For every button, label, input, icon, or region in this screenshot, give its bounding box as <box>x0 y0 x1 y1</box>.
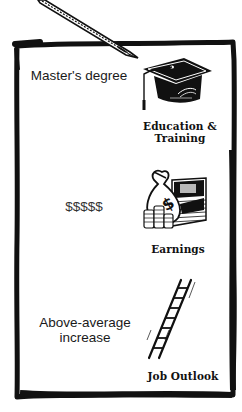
value-line: increase <box>30 330 140 345</box>
ladder-icon <box>145 278 200 360</box>
education-value: Master's degree <box>24 68 134 83</box>
value-line: Above-average <box>30 315 140 330</box>
job-outlook-caption: Job Outlook <box>138 370 228 382</box>
earnings-value: $$$$$ <box>46 199 122 214</box>
caption-line: Education & <box>140 120 220 132</box>
earnings-caption: Earnings <box>140 243 216 255</box>
pencil-icon <box>38 0 138 58</box>
caption-line: Training <box>140 132 220 144</box>
graduation-cap-icon <box>140 54 216 114</box>
job-outlook-value: Above-average increase <box>30 315 140 345</box>
education-training-caption: Education & Training <box>140 120 220 144</box>
money-bag-icon: $ <box>142 168 210 232</box>
